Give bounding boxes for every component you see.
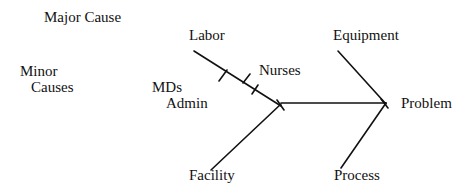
major-cause-facility: Facility [189, 167, 235, 184]
effect-problem: Problem [401, 95, 452, 112]
facility-bone [211, 104, 281, 170]
major-cause-process: Process [334, 167, 380, 184]
legend-minor-line2: Causes [31, 79, 74, 96]
legend-major-cause: Major Cause [44, 9, 121, 26]
minor-cause-mds: MDs [152, 79, 182, 96]
admin-tick [252, 85, 258, 94]
major-cause-labor: Labor [189, 27, 225, 44]
equipment-bone [338, 51, 386, 104]
process-bone [341, 103, 386, 168]
minor-cause-nurses: Nurses [259, 62, 301, 79]
mds-tick [219, 70, 227, 81]
nurses-tick [243, 74, 250, 83]
major-cause-equipment: Equipment [333, 27, 399, 44]
fishbone-diagram: Major Cause Minor Causes Labor Equipment… [0, 0, 466, 190]
minor-cause-admin: Admin [166, 95, 208, 112]
legend-minor-line1: Minor [20, 63, 58, 80]
